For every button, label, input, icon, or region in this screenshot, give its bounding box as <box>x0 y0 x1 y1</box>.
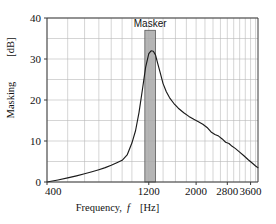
x-tick-label: 400 <box>45 185 62 197</box>
y-axis-unit: [dB] <box>5 37 16 56</box>
x-axis-symbol: f <box>127 202 132 213</box>
x-tick-label: 2800 <box>216 185 239 197</box>
y-axis-title: Masking <box>5 81 16 119</box>
y-tick-label: 30 <box>30 53 42 65</box>
annotations-group: Masker <box>134 18 167 29</box>
masker-label: Masker <box>134 18 167 29</box>
chart-svg: 4001200200028003600 010203040 Masker Fre… <box>0 0 276 224</box>
masking-curve-figure: 4001200200028003600 010203040 Masker Fre… <box>0 0 276 224</box>
y-tick-label: 40 <box>30 12 42 24</box>
y-tick-labels-group: 010203040 <box>30 12 42 188</box>
y-tick-label: 20 <box>30 94 42 106</box>
x-tick-label: 1200 <box>138 185 161 197</box>
x-tick-labels-group: 4001200200028003600 <box>45 185 262 197</box>
x-axis-title: Frequency, <box>76 202 122 213</box>
x-axis-unit: [Hz] <box>140 202 159 213</box>
y-tick-label: 0 <box>36 176 42 188</box>
x-tick-label: 2000 <box>185 185 208 197</box>
y-tick-label: 10 <box>30 135 42 147</box>
x-tick-label: 3600 <box>240 185 263 197</box>
